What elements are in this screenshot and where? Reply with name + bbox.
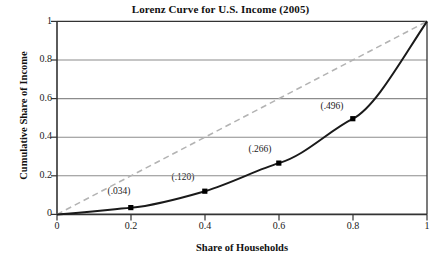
plot-area (0, 0, 441, 264)
lorenz-curve-figure: Lorenz Curve for U.S. Income (2005) Cumu… (0, 0, 441, 264)
equality-line (57, 21, 427, 214)
data-point-markers (128, 116, 355, 210)
